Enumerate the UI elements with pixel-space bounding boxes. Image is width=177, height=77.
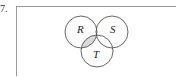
venn-diagram: R S T — [0, 0, 176, 76]
universal-set-frame — [17, 7, 177, 77]
set-t-label: T — [93, 48, 100, 60]
set-s-label: S — [110, 23, 116, 35]
set-r-label: R — [76, 23, 84, 35]
